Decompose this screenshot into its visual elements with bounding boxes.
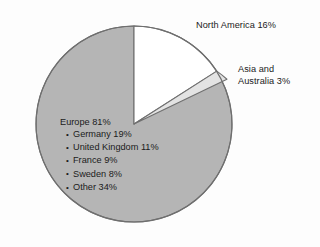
list-item: Germany 19% (66, 128, 159, 141)
pie-chart-graphic (0, 0, 320, 247)
slice-label-asia-australia: Asia and Australia 3% (238, 64, 290, 87)
list-item: France 9% (66, 154, 159, 167)
slice-label-europe-heading: Europe 81% (60, 116, 159, 128)
slice-label-asia-australia-line2: Australia 3% (238, 76, 290, 88)
slice-label-north-america: North America 16% (196, 20, 276, 32)
pie-chart-figure: North America 16% Asia and Australia 3% … (0, 0, 320, 247)
list-item: Sweden 8% (66, 168, 159, 181)
list-item: Other 34% (66, 181, 159, 194)
slice-label-asia-australia-line1: Asia and (238, 64, 290, 76)
europe-breakdown-list: Germany 19% United Kingdom 11% France 9%… (60, 128, 159, 194)
list-item: United Kingdom 11% (66, 141, 159, 154)
slice-label-europe: Europe 81% Germany 19% United Kingdom 11… (60, 116, 159, 194)
